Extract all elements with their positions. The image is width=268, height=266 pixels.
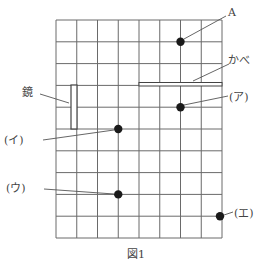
point-ウ-leader-line [44,189,114,194]
grid [56,20,222,238]
point-イ-leader-line [43,130,114,140]
point-a-leader-line [184,16,226,39]
point-イ-label: (イ) [4,134,24,147]
mirror [71,85,77,129]
point-エ-leader-line [224,212,233,215]
point-ア-leader-line [184,96,228,105]
point-a-label: A [227,6,237,19]
figure-1-diagram: 鏡 かべ A (ア) (イ) (ウ) (エ) 図1 [0,0,268,266]
point-イ [114,125,122,133]
point-a [176,38,184,46]
point-ア-label: (ア) [229,91,249,104]
wall-leader-line [193,64,229,81]
point-エ [216,212,224,220]
point-ウ [114,190,122,198]
figure-caption: 図1 [127,248,145,261]
point-ア [176,103,184,111]
point-ウ-label: (ウ) [6,182,26,195]
wall-label: かべ [228,54,250,67]
wall [139,83,222,87]
mirror-leader-line [40,94,69,103]
point-エ-label: (エ) [234,207,254,220]
mirror-label: 鏡 [22,85,33,99]
